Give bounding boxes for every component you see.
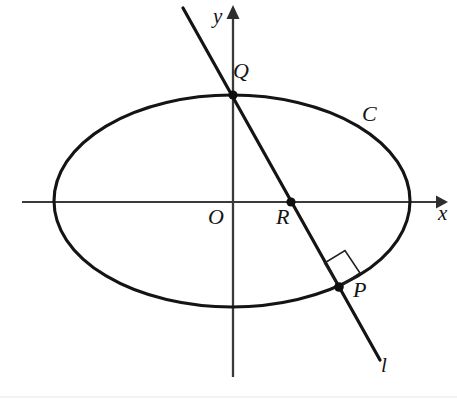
point-q-label: Q [233, 60, 249, 82]
x-axis [22, 196, 448, 209]
x-axis-label: x [438, 203, 447, 224]
figure-canvas [0, 0, 457, 406]
y-axis-label: y [213, 6, 222, 27]
geometry-figure: y x Q O R P C l [0, 0, 457, 406]
point-q-dot [228, 90, 237, 99]
point-r-label: R [276, 206, 289, 228]
origin-label: O [208, 206, 224, 228]
point-p-dot [334, 282, 344, 292]
line-l-label: l [381, 355, 387, 376]
point-p-label: P [353, 279, 366, 301]
curve-c-label: C [362, 103, 377, 125]
scan-edge-artifact [0, 396, 457, 398]
y-axis-arrowhead [227, 5, 240, 19]
